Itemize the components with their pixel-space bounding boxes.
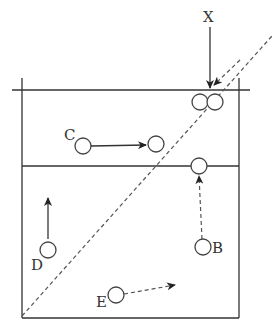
label-e: E xyxy=(96,293,107,311)
surface-particle-left xyxy=(192,94,208,110)
dashed-diagonal-ray xyxy=(22,36,272,316)
diagram-canvas: X C B D E xyxy=(0,0,272,331)
particle-e xyxy=(108,287,124,303)
boundary-particle xyxy=(191,158,207,174)
dashed-ray-arrow xyxy=(214,60,240,85)
c-arrow xyxy=(91,145,146,146)
label-d: D xyxy=(31,256,43,274)
particle-b xyxy=(195,239,211,255)
particle-c-end xyxy=(148,136,164,152)
label-c: C xyxy=(64,126,75,144)
surface-particle-right xyxy=(207,94,223,110)
label-b: B xyxy=(212,239,223,257)
b-dashed-arrow xyxy=(199,176,202,239)
particle-c-start xyxy=(75,138,91,154)
label-x: X xyxy=(203,8,214,26)
e-dashed-arrow xyxy=(124,285,175,294)
